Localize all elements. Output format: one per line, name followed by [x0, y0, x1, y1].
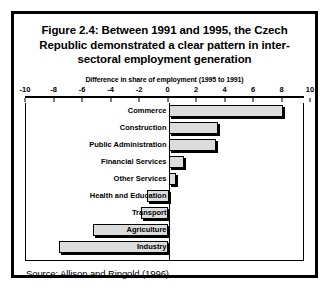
x-axis-caption: Difference in share of employment (1995 … — [14, 76, 315, 83]
bar-category-label: Public Administration — [26, 139, 169, 151]
x-tick-mark — [25, 98, 26, 102]
bar-category-label: Construction — [26, 122, 169, 134]
x-tick-mark — [310, 98, 311, 102]
source-note: Source: Allison and Ringold (1996). — [26, 268, 315, 279]
x-tick-label: -4 — [107, 85, 114, 94]
x-tick-label: -10 — [20, 85, 31, 94]
bar-category-label: Other Services — [26, 173, 169, 185]
x-tick-label: 8 — [279, 85, 283, 94]
x-tick-label: 10 — [306, 85, 314, 94]
x-tick-label: 2 — [194, 85, 198, 94]
x-tick-mark — [196, 98, 197, 102]
plot-area: -10-8-6-4-20246810 CommerceConstructionP… — [25, 85, 304, 261]
x-axis-line — [25, 96, 304, 103]
x-tick-mark — [53, 98, 54, 102]
x-tick-mark — [253, 98, 254, 102]
figure-title-line-3: sectoral employment generation — [28, 52, 301, 67]
bar-category-label: Transport — [26, 207, 169, 219]
bar-category-label: Industry — [26, 241, 169, 253]
bar-category-label: Health and Education — [26, 190, 169, 202]
x-tick-mark — [110, 98, 111, 102]
x-tick-mark — [224, 98, 225, 102]
figure-title: Figure 2.4: Between 1991 and 1995, the C… — [28, 23, 301, 67]
figure-title-line-2: Republic demonstrated a clear pattern in… — [28, 38, 301, 53]
x-tick-mark — [167, 98, 168, 102]
bar — [169, 173, 176, 185]
bar — [169, 122, 219, 134]
bar-category-label: Commerce — [26, 105, 169, 117]
x-tick-mark — [82, 98, 83, 102]
x-tick-label: 4 — [222, 85, 226, 94]
x-tick-mark — [281, 98, 282, 102]
bar — [169, 139, 216, 151]
bar-category-label: Agriculture — [26, 224, 169, 236]
bar-category-label: Financial Services — [26, 156, 169, 168]
x-tick-label: -6 — [79, 85, 86, 94]
x-axis-tick-labels: -10-8-6-4-20246810 — [25, 85, 304, 96]
x-tick-label: 6 — [251, 85, 255, 94]
figure-title-line-1: Figure 2.4: Between 1991 and 1995, the C… — [28, 23, 301, 38]
x-tick-label: -2 — [136, 85, 143, 94]
figure-frame: Figure 2.4: Between 1991 and 1995, the C… — [11, 11, 318, 278]
x-tick-label: 0 — [165, 85, 169, 94]
plot-box: CommerceConstructionPublic Administratio… — [25, 103, 304, 261]
bar — [169, 156, 185, 168]
x-tick-label: -8 — [50, 85, 57, 94]
x-tick-mark — [139, 98, 140, 102]
bar — [169, 105, 283, 117]
